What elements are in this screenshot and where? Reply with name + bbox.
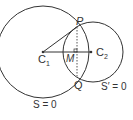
label-c2: C2 [96,47,108,60]
label-c1-letter: C [38,53,46,65]
label-c1-sub: 1 [46,60,50,67]
label-c2-letter: C [96,46,104,58]
point-c2 [90,51,93,54]
label-p: P [76,16,83,27]
label-c2-sub: 2 [104,53,108,60]
label-s-prime: S′ = 0 [101,82,127,92]
line-c1-p [43,27,77,52]
label-m: M [66,54,74,64]
label-s: S = 0 [33,100,57,110]
label-c1: C1 [38,54,50,67]
label-q: Q [74,80,83,91]
